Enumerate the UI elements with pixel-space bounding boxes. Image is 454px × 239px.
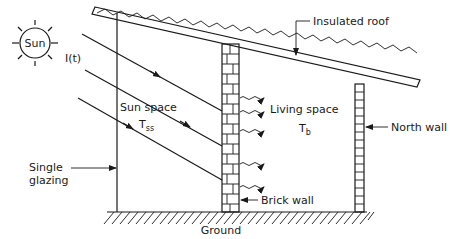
north-wall bbox=[355, 84, 364, 212]
heat-flow-arrows bbox=[240, 97, 264, 189]
sun-space-label: Sun space bbox=[120, 101, 177, 114]
glazing-label-line2: glazing bbox=[29, 174, 69, 187]
sun-label: Sun bbox=[25, 37, 46, 50]
brick-wall bbox=[222, 44, 239, 212]
ground-label: Ground bbox=[201, 224, 241, 237]
sun-icon: Sun bbox=[12, 20, 58, 66]
sunspace-diagram: Sun I(t) bbox=[0, 0, 454, 239]
sun-space-temp-label: Tss bbox=[138, 118, 154, 133]
irradiance-label: I(t) bbox=[65, 52, 81, 65]
living-space-label: Living space bbox=[270, 103, 339, 116]
living-space-temp-label: Tb bbox=[298, 122, 311, 137]
glazing-label-line1: Single bbox=[29, 161, 63, 174]
roof-label: Insulated roof bbox=[313, 15, 390, 28]
ground bbox=[104, 212, 374, 224]
north-wall-label: North wall bbox=[391, 121, 447, 134]
brick-wall-label: Brick wall bbox=[261, 194, 314, 207]
